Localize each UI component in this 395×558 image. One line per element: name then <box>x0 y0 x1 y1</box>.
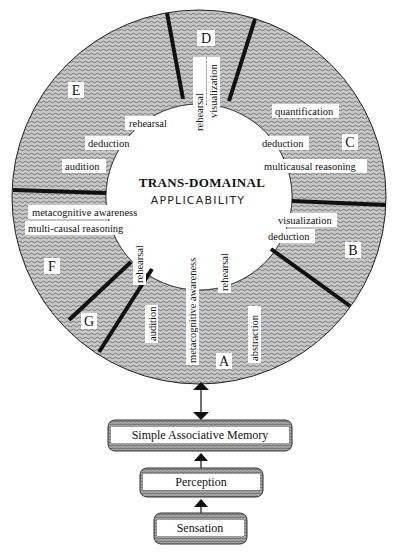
sector-letter-b: B <box>348 243 357 258</box>
label-a-metacognitive-awareness: metacognitive awareness <box>187 258 198 363</box>
sector-letter-a: A <box>219 354 230 369</box>
label-e-rehearsal: rehearsal <box>129 118 167 129</box>
sector-letter-d: D <box>201 31 211 46</box>
center-subtitle: APPLICABILITY <box>151 194 246 207</box>
hierarchy-boxes: Simple Associative Memory Perception Sen… <box>108 420 292 544</box>
label-f-rehearsal: rehearsal <box>134 245 145 283</box>
label-d-visualization: visualization <box>208 64 219 118</box>
label-f-multi-causal-reasoning: multi-causal reasoning <box>28 223 124 234</box>
center-title: TRANS-DOMAINAL <box>139 175 265 190</box>
box-simple-associative-memory: Simple Associative Memory <box>108 420 292 451</box>
sector-letter-f: F <box>48 259 56 274</box>
label-b-visualization: visualization <box>278 215 332 226</box>
box-perception: Perception <box>140 468 263 497</box>
label-b-deduction: deduction <box>268 231 310 242</box>
label-c-deduction: deduction <box>262 138 304 149</box>
label-a-audition: audition <box>147 306 158 341</box>
sector-letter-c: C <box>345 135 354 150</box>
sector-letter-g: G <box>84 314 94 329</box>
label-f-metacognitive-awareness: metacognitive awareness <box>32 207 137 218</box>
label-c-quantification: quantification <box>275 106 334 117</box>
label-d-rehearsal: rehearsal <box>194 93 205 131</box>
arrow-down-icon <box>193 412 209 420</box>
box-label-perception: Perception <box>175 475 226 489</box>
sector-letter-e: E <box>72 83 81 98</box>
arrow-up-icon <box>194 499 208 507</box>
label-e-audition: audition <box>65 161 100 172</box>
box-label-memory: Simple Associative Memory <box>132 428 269 442</box>
trans-domainal-diagram: TRANS-DOMAINAL APPLICABILITY E D C B A G… <box>0 0 395 558</box>
label-a-abstraction: abstraction <box>249 314 260 361</box>
arrow-up-icon <box>194 453 208 461</box>
label-e-deduction: deduction <box>88 138 130 149</box>
box-label-sensation: Sensation <box>177 521 224 535</box>
label-c-multicausal-reasoning: multicausal reasoning <box>264 161 357 172</box>
label-a-rehearsal: rehearsal <box>219 253 230 291</box>
box-sensation: Sensation <box>154 513 247 544</box>
